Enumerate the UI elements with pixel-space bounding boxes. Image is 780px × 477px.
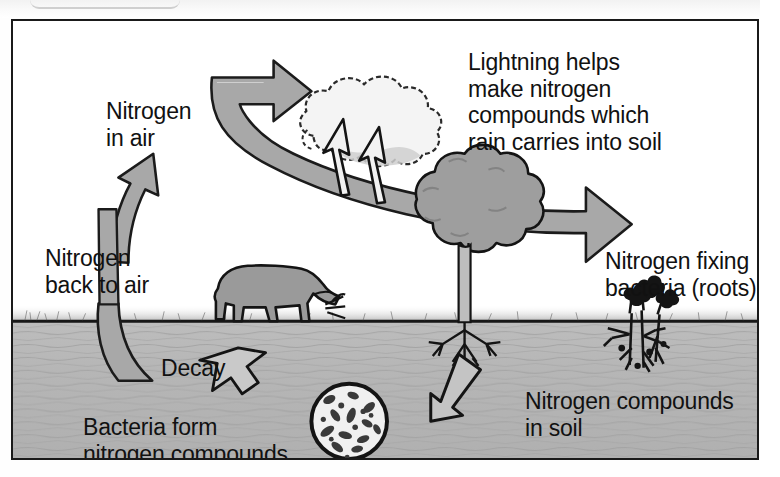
scan-edge-right xyxy=(760,0,780,477)
label-bacteria-form-nitrogen-compounds: Bacteria form nitrogen compounds xyxy=(83,414,288,460)
page: Nitrogen in air Lightning helps make nit… xyxy=(0,0,780,477)
scan-edge-top xyxy=(0,0,780,18)
diagram-frame: Nitrogen in air Lightning helps make nit… xyxy=(11,19,759,460)
label-nitrogen-fixing-bacteria: Nitrogen fixing bacteria (roots) xyxy=(605,248,756,301)
label-lightning-helps: Lightning helps make nitrogen compounds … xyxy=(468,49,662,156)
label-nitrogen-in-air: Nitrogen in air xyxy=(106,98,191,151)
label-nitrogen-back-to-air: Nitrogen back to air xyxy=(45,245,149,298)
label-nitrogen-compounds-in-soil: Nitrogen compounds in soil xyxy=(525,388,734,441)
bacteria-circle xyxy=(311,384,387,458)
label-decay: Decay xyxy=(161,355,225,382)
